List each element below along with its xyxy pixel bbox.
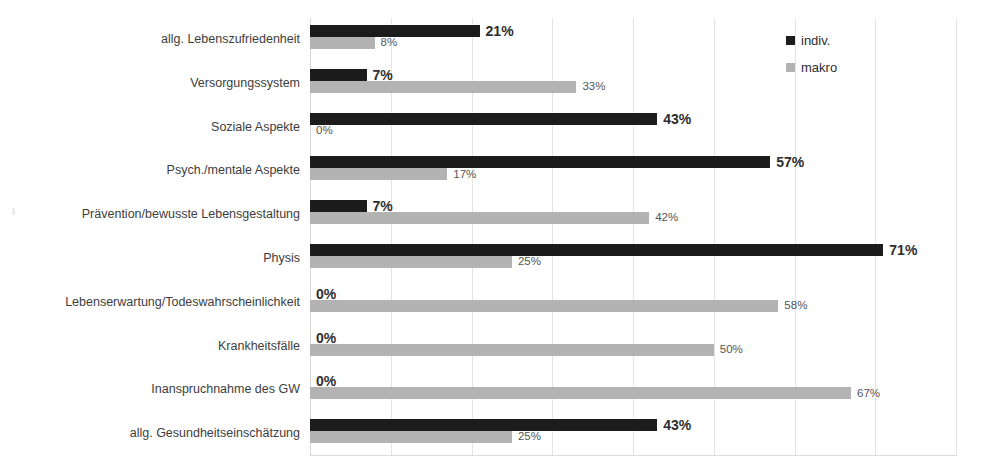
bar-makro[interactable] xyxy=(310,387,851,399)
bar-value-label: 58% xyxy=(784,300,807,312)
bar-line-indiv: 7% xyxy=(310,69,393,81)
bar-line-indiv: 71% xyxy=(310,244,917,256)
bar-line-indiv: 43% xyxy=(310,113,691,125)
bar-line-makro: 67% xyxy=(310,387,880,399)
bar-makro[interactable] xyxy=(310,344,714,356)
bar-line-indiv: 21% xyxy=(310,25,514,37)
bar-value-label: 21% xyxy=(486,24,514,38)
category-label: Prävention/bewusste Lebensgestaltung xyxy=(0,208,300,221)
bar-line-makro: 8% xyxy=(310,37,397,49)
bar-value-label: 0% xyxy=(316,374,336,388)
category-axis-labels: allg. LebenszufriedenheitVersorgungssyst… xyxy=(0,18,300,456)
bar-makro[interactable] xyxy=(310,300,778,312)
bar-line-indiv: 0% xyxy=(310,288,336,300)
category-label: allg. Gesundheitseinschätzung xyxy=(0,427,300,440)
bar-line-indiv: 57% xyxy=(310,156,804,168)
bar-value-label: 17% xyxy=(453,169,476,181)
bar-line-makro: 0% xyxy=(310,125,333,137)
category-label: Physis xyxy=(0,252,300,265)
bar-group: 43%25% xyxy=(310,412,956,455)
bar-group: 0%50% xyxy=(310,325,956,368)
bar-group: 57%17% xyxy=(310,149,956,192)
bar-makro[interactable] xyxy=(310,37,375,49)
bar-line-indiv: 0% xyxy=(310,375,336,387)
legend-label: makro xyxy=(801,61,837,74)
bar-makro[interactable] xyxy=(310,168,447,180)
legend-label: indiv. xyxy=(801,34,830,47)
bar-indiv[interactable] xyxy=(310,69,367,81)
bar-value-label: 33% xyxy=(582,81,605,93)
bar-group: 0%58% xyxy=(310,281,956,324)
bar-line-makro: 58% xyxy=(310,300,807,312)
bar-line-makro: 25% xyxy=(310,256,541,268)
bar-indiv[interactable] xyxy=(310,156,770,168)
bar-line-makro: 42% xyxy=(310,212,678,224)
category-label: Psych./mentale Aspekte xyxy=(0,164,300,177)
bar-chart: allg. LebenszufriedenheitVersorgungssyst… xyxy=(0,0,996,472)
bar-line-indiv: 43% xyxy=(310,419,691,431)
bar-value-label: 25% xyxy=(518,256,541,268)
bar-makro[interactable] xyxy=(310,256,512,268)
bar-value-label: 57% xyxy=(776,155,804,169)
bar-value-label: 67% xyxy=(857,388,880,400)
chart-legend: indiv.makro xyxy=(786,33,936,87)
bar-makro[interactable] xyxy=(310,431,512,443)
category-label: allg. Lebenszufriedenheit xyxy=(0,33,300,46)
bar-indiv[interactable] xyxy=(310,25,480,37)
bar-line-makro: 17% xyxy=(310,168,476,180)
bar-value-label: 8% xyxy=(381,37,398,49)
bar-value-label: 42% xyxy=(655,212,678,224)
bar-value-label: 0% xyxy=(316,287,336,301)
bar-value-label: 0% xyxy=(316,125,333,137)
bar-line-indiv: 7% xyxy=(310,200,393,212)
bar-group: 7%42% xyxy=(310,193,956,236)
category-label: Inanspruchnahme des GW xyxy=(0,383,300,396)
category-label: Soziale Aspekte xyxy=(0,121,300,134)
bar-value-label: 7% xyxy=(373,199,393,213)
bar-value-label: 71% xyxy=(889,243,917,257)
bar-group: 43%0% xyxy=(310,106,956,149)
bar-group: 0%67% xyxy=(310,368,956,411)
bar-makro[interactable] xyxy=(310,212,649,224)
bar-line-makro: 33% xyxy=(310,81,606,93)
bar-value-label: 0% xyxy=(316,331,336,345)
square-marker-icon xyxy=(786,63,795,72)
bar-indiv[interactable] xyxy=(310,113,657,125)
bar-group: 71%25% xyxy=(310,237,956,280)
bar-value-label: 7% xyxy=(373,68,393,82)
bar-value-label: 43% xyxy=(663,418,691,432)
square-marker-icon xyxy=(786,36,795,45)
bar-indiv[interactable] xyxy=(310,419,657,431)
bar-value-label: 50% xyxy=(720,344,743,356)
bar-value-label: 25% xyxy=(518,431,541,443)
category-label: Krankheitsfälle xyxy=(0,340,300,353)
category-label: Versorgungssystem xyxy=(0,77,300,90)
bar-indiv[interactable] xyxy=(310,244,883,256)
gridline-80 xyxy=(956,18,957,456)
category-label: Lebenserwartung/Todeswahrscheinlichkeit xyxy=(0,296,300,309)
legend-item-indiv[interactable]: indiv. xyxy=(786,33,936,47)
bar-line-makro: 25% xyxy=(310,431,541,443)
bar-indiv[interactable] xyxy=(310,200,367,212)
bar-line-indiv: 0% xyxy=(310,332,336,344)
legend-item-makro[interactable]: makro xyxy=(786,60,936,74)
bar-makro[interactable] xyxy=(310,81,576,93)
bar-line-makro: 50% xyxy=(310,344,743,356)
bar-value-label: 43% xyxy=(663,112,691,126)
